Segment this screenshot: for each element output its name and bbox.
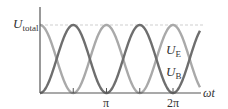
u-e-label: UE bbox=[166, 43, 181, 59]
tick-label-pi: π bbox=[103, 97, 109, 109]
x-axis-ticks bbox=[73, 88, 173, 93]
tick-label-2pi: 2π bbox=[167, 97, 179, 109]
u-b-label: UB bbox=[166, 65, 181, 81]
x-axis-label: ωt bbox=[203, 87, 215, 99]
y-axis-label: Utotal bbox=[13, 17, 38, 33]
